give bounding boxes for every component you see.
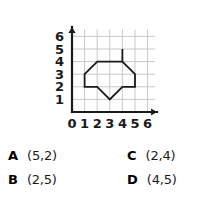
axis-origin-label: 0 xyxy=(67,116,76,131)
x-tick-label: 5 xyxy=(130,116,139,131)
coordinate-plane-svg: 0123456123456 xyxy=(0,0,204,140)
answer-choice-d-letter: D xyxy=(127,172,138,187)
tick-labels-group: 0123456123456 xyxy=(55,29,152,131)
answer-choice-d-text: (4,5) xyxy=(147,172,177,187)
axes-group xyxy=(68,27,157,116)
answer-choices: A (5,2) B (2,5) C (2,4) D (4,5) xyxy=(0,140,204,201)
answer-choice-b-letter: B xyxy=(8,172,18,187)
answer-choice-a-text: (5,2) xyxy=(27,148,57,163)
answer-choice-b-text: (2,5) xyxy=(27,172,57,187)
x-axis-arrowhead xyxy=(151,108,157,115)
answer-choice-a-letter: A xyxy=(8,148,18,163)
answer-choice-c-letter: C xyxy=(127,148,137,163)
x-tick-label: 2 xyxy=(93,116,102,131)
answer-choice-c[interactable]: C (2,4) xyxy=(127,148,175,163)
answer-choice-d[interactable]: D (4,5) xyxy=(127,172,177,187)
answer-choice-a[interactable]: A (5,2) xyxy=(8,148,57,163)
gridlines-group xyxy=(72,29,155,112)
y-axis-arrowhead xyxy=(68,27,75,33)
x-tick-label: 6 xyxy=(143,116,152,131)
answer-choice-b[interactable]: B (2,5) xyxy=(8,172,57,187)
x-tick-label: 4 xyxy=(118,116,127,131)
x-tick-label: 3 xyxy=(105,116,114,131)
x-tick-label: 1 xyxy=(80,116,89,131)
coordinate-grid-figure: 0123456123456 xyxy=(0,0,204,140)
answer-choice-c-text: (2,4) xyxy=(146,148,176,163)
y-tick-label: 6 xyxy=(55,29,64,44)
